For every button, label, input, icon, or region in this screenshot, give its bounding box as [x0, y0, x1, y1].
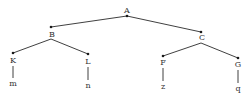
node-label-G: G — [235, 61, 241, 69]
tree-diagram: ABCKLFGmnzq — [0, 0, 249, 98]
node-label-A: A — [124, 7, 130, 15]
node-dot-K — [12, 52, 15, 55]
node-dot-F — [162, 55, 165, 58]
node-dot-A — [126, 15, 129, 18]
node-label-C: C — [199, 34, 205, 42]
node-label-m: m — [9, 80, 17, 88]
node-label-z: z — [161, 83, 165, 91]
edge-C-G — [201, 43, 238, 58]
node-label-K: K — [10, 57, 16, 65]
node-dot-G — [237, 57, 240, 60]
edge-B-L — [51, 39, 88, 54]
node-dot-B — [50, 26, 53, 29]
node-label-q: q — [235, 85, 240, 93]
edge-A-B — [51, 16, 127, 27]
edge-C-F — [163, 43, 201, 56]
node-label-L: L — [85, 58, 90, 66]
edge-B-K — [13, 39, 51, 53]
node-label-B: B — [49, 31, 55, 39]
node-label-F: F — [160, 59, 166, 67]
node-dot-L — [87, 53, 90, 56]
node-label-n: n — [85, 82, 90, 90]
edge-A-C — [127, 16, 201, 32]
